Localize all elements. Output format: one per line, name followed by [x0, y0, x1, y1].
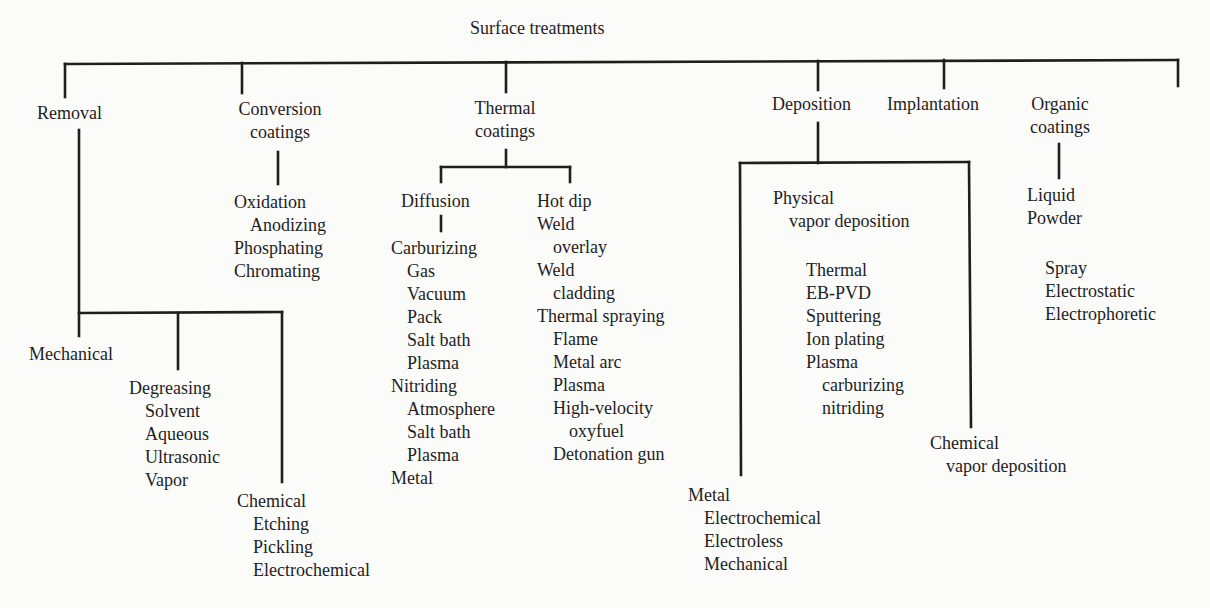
list-item: nitriding	[806, 397, 904, 420]
list-item: Ion plating	[806, 328, 904, 351]
list-item: oxyfuel	[537, 420, 664, 443]
list-item: Aqueous	[129, 423, 220, 446]
list-item: Electrostatic	[1045, 280, 1156, 303]
list-item: Oxidation	[234, 191, 326, 214]
list-item: Vapor	[129, 469, 220, 492]
node-label-line: coatings	[1010, 116, 1110, 139]
list-item: Electrophoretic	[1045, 303, 1156, 326]
list-item: carburizing	[806, 374, 904, 397]
node-diffusion: Diffusion	[401, 190, 470, 213]
node-label-line: Chemical	[930, 432, 1066, 455]
list-item: Weld	[537, 259, 664, 282]
list-item: Electroless	[688, 530, 821, 553]
group-label: Thermal spraying	[537, 305, 664, 328]
list-item: Plasma	[806, 351, 904, 374]
list-item: Powder	[1027, 207, 1082, 230]
node-label-line: coatings	[195, 121, 365, 144]
node-cvd: Chemical vapor deposition	[930, 432, 1066, 478]
node-organic-coatings: Organic coatings	[1010, 93, 1110, 139]
node-deposition-metal: Metal Electrochemical Electroless Mechan…	[688, 484, 821, 576]
list-item: overlay	[537, 236, 664, 259]
node-implantation: Implantation	[887, 93, 979, 116]
root-node: Surface treatments	[470, 17, 604, 40]
node-conversion-coatings: Conversion coatings	[195, 98, 365, 144]
node-diffusion-list: Carburizing Gas Vacuum Pack Salt bath Pl…	[391, 237, 495, 490]
node-label-line: Organic	[1010, 93, 1110, 116]
list-item: Plasma	[391, 444, 495, 467]
node-removal: Removal	[37, 102, 102, 125]
node-mechanical: Mechanical	[29, 343, 113, 366]
list-item: Etching	[237, 513, 370, 536]
node-thermal-coatings: Thermal coatings	[440, 97, 570, 143]
list-item: Mechanical	[688, 553, 821, 576]
node-label-line: Physical	[773, 187, 909, 210]
list-item: Pickling	[237, 536, 370, 559]
node-label-line: vapor deposition	[773, 210, 909, 233]
group-label: Metal	[688, 484, 821, 507]
list-item: EB-PVD	[806, 282, 904, 305]
list-item: Atmosphere	[391, 398, 495, 421]
node-label-line: Thermal	[440, 97, 570, 120]
list-item: Solvent	[129, 400, 220, 423]
node-chemical-removal: Chemical Etching Pickling Electrochemica…	[237, 490, 370, 582]
list-item: Thermal	[806, 259, 904, 282]
list-item: Chromating	[234, 260, 326, 283]
node-degreasing: Degreasing Solvent Aqueous Ultrasonic Va…	[129, 377, 220, 492]
list-item: High-velocity	[537, 397, 664, 420]
list-item: Hot dip	[537, 190, 664, 213]
node-conversion-list: Oxidation Anodizing Phosphating Chromati…	[234, 191, 326, 283]
node-label-line: Conversion	[195, 98, 365, 121]
list-item: Plasma	[537, 374, 664, 397]
list-item: Weld	[537, 213, 664, 236]
list-item: Phosphating	[234, 237, 326, 260]
list-item: Salt bath	[391, 329, 495, 352]
list-item: Salt bath	[391, 421, 495, 444]
list-item: Pack	[391, 306, 495, 329]
node-pvd-list: Thermal EB-PVD Sputtering Ion plating Pl…	[806, 259, 904, 420]
group-label: Chemical	[237, 490, 370, 513]
list-item: Vacuum	[391, 283, 495, 306]
list-item: cladding	[537, 282, 664, 305]
node-organic-methods: Spray Electrostatic Electrophoretic	[1045, 257, 1156, 326]
list-item: Liquid	[1027, 184, 1082, 207]
node-thermal-other-list: Hot dip Weld overlay Weld cladding Therm…	[537, 190, 664, 466]
list-item: Anodizing	[234, 214, 326, 237]
list-item: Detonation gun	[537, 443, 664, 466]
list-item: Metal arc	[537, 351, 664, 374]
list-item: Electrochemical	[237, 559, 370, 582]
list-item: Flame	[537, 328, 664, 351]
node-label-line: coatings	[440, 120, 570, 143]
list-item: Ultrasonic	[129, 446, 220, 469]
group-label: Metal	[391, 467, 495, 490]
node-label-line: vapor deposition	[930, 455, 1066, 478]
list-item: Plasma	[391, 352, 495, 375]
group-label: Carburizing	[391, 237, 495, 260]
list-item: Sputtering	[806, 305, 904, 328]
list-item: Electrochemical	[688, 507, 821, 530]
list-item: Spray	[1045, 257, 1156, 280]
list-item: Gas	[391, 260, 495, 283]
group-label: Degreasing	[129, 377, 220, 400]
node-deposition: Deposition	[772, 93, 851, 116]
node-pvd: Physical vapor deposition	[773, 187, 909, 233]
node-organic-forms: Liquid Powder	[1027, 184, 1082, 230]
group-label: Nitriding	[391, 375, 495, 398]
